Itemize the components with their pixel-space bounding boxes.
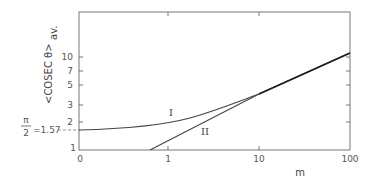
- y-tick-1: 1: [70, 143, 76, 153]
- svg-text:π: π: [23, 115, 29, 125]
- asymptote-overlap: [259, 53, 350, 94]
- x-tick-100: 100: [341, 154, 358, 164]
- svg-text:2: 2: [23, 128, 29, 138]
- curve-I: [79, 53, 350, 130]
- curve-I-label: I: [169, 107, 173, 118]
- y-tick-10: 10: [62, 52, 74, 62]
- y-tick-5: 5: [67, 80, 73, 90]
- svg-text:av.: av.: [48, 26, 59, 40]
- y-tick-7: 7: [67, 66, 73, 76]
- y-axis-label: <COSEC θ> av.: [43, 26, 59, 104]
- svg-text:=1.57: =1.57: [33, 125, 61, 135]
- curve-II: [150, 53, 350, 150]
- plot-frame: [79, 12, 350, 150]
- x-axis-label: m: [295, 167, 305, 178]
- x-tick-10: 10: [253, 154, 265, 164]
- x-tick-1: 1: [165, 154, 171, 164]
- chart-canvas: 10 7 5 3 2 1 0 1 10 100 m <COSEC θ> av. …: [0, 0, 376, 180]
- x-tick-0: 0: [77, 154, 83, 164]
- y-tick-3: 3: [67, 100, 73, 110]
- curve-II-label: II: [201, 126, 209, 137]
- svg-text:<COSEC θ>: <COSEC θ>: [43, 43, 54, 104]
- y-tick-2: 2: [67, 117, 73, 127]
- y-axis-ticks: [79, 12, 350, 150]
